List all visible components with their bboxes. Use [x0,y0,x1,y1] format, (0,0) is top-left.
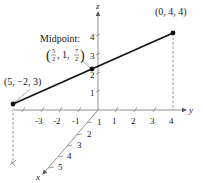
point-p2 [171,31,176,36]
midpoint-label: ( 5 2 , 1, 7 2 ) [46,47,85,64]
y-axis: y -3 -2 -1 1 2 3 4 [14,105,193,126]
midpoint-title: Midpoint: [40,33,80,44]
mid-open-paren: ( [46,48,51,64]
z-tick-1: 1 [90,88,95,98]
p1-foot-mark [10,160,16,166]
z-axis-label: z [95,1,100,11]
z-tick-4: 4 [90,32,95,42]
y-tick-neg2: -2 [53,116,61,126]
mid-z-numerator: 7 [75,47,79,54]
z-axis: z 1 2 3 4 [90,1,100,110]
mid-y-value: , 1, [57,49,72,60]
mid-close-paren: ) [80,48,85,64]
x-axis: x 1 2 3 4 5 [35,110,102,182]
mid-z-denominator: 2 [75,55,78,62]
y-tick-2: 2 [131,116,136,126]
mid-x-denominator: 2 [52,55,55,62]
midpoint-3d-diagram: z 1 2 3 4 y -3 -2 -1 1 2 3 4 x 1 [0,0,203,183]
y-tick-1: 1 [112,116,117,126]
y-axis-label: y [188,105,193,115]
point-midpoint [90,67,95,72]
y-tick-neg1: -1 [72,116,80,126]
x-tick-5: 5 [58,162,63,172]
x-tick-1: 1 [97,117,102,127]
z-tick-3: 3 [90,51,95,61]
y-tick-neg3: -3 [35,116,43,126]
y-tick-4: 4 [169,116,174,126]
z-tick-2: 2 [90,70,95,80]
x-axis-label: x [35,172,40,182]
x-tick-4: 4 [67,151,72,161]
x-tick-2: 2 [87,129,92,139]
p1-label: (5, −2, 3) [4,76,41,88]
point-p1 [11,102,16,107]
y-tick-3: 3 [150,116,155,126]
p2-label: (0, 4, 4) [155,6,187,18]
x-tick-3: 3 [77,140,82,150]
mid-x-numerator: 5 [52,47,55,54]
